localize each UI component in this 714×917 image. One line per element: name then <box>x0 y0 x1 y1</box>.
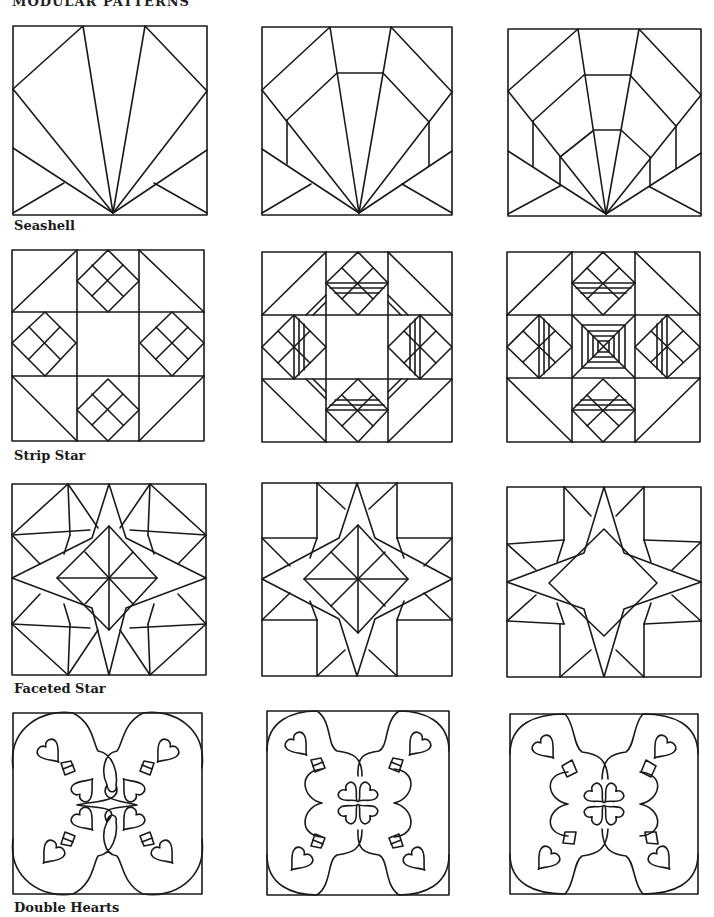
page-header-partial: MODULAR PATTERNS <box>12 0 190 9</box>
faceted-star-block-2 <box>262 483 452 676</box>
double-hearts-block-2 <box>267 711 449 895</box>
row-label-seashell: Seashell <box>14 218 75 233</box>
strip-star-block-3 <box>507 252 700 442</box>
seashell-block-1 <box>13 26 207 215</box>
faceted-star-block-1 <box>12 484 206 675</box>
row-label-faceted-star: Faceted Star <box>14 681 106 696</box>
row-label-strip-star: Strip Star <box>14 448 85 463</box>
faceted-star-block-3 <box>507 487 701 677</box>
seashell-block-3 <box>508 29 701 216</box>
double-hearts-block-1 <box>13 713 202 894</box>
seashell-block-2 <box>262 27 452 215</box>
double-hearts-block-3 <box>510 714 698 894</box>
strip-star-block-2 <box>262 252 452 442</box>
row-label-double-hearts: Double Hearts <box>14 900 119 915</box>
strip-star-block-1 <box>12 250 204 441</box>
